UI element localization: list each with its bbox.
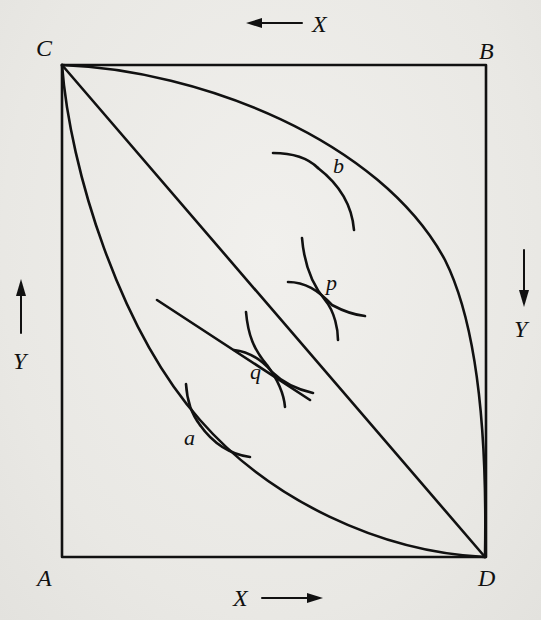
top-x-arrow-icon	[246, 18, 302, 28]
bottom-axis-label-x: X	[233, 586, 248, 610]
point-label-b: b	[333, 155, 344, 177]
right-y-arrow-icon	[519, 250, 529, 307]
corner-label-c: C	[36, 36, 52, 60]
top-axis-label-x: X	[312, 12, 327, 36]
corner-label-b: B	[479, 39, 494, 63]
corner-label-d: D	[478, 566, 495, 590]
tangency-a	[186, 384, 250, 457]
point-label-p: p	[326, 272, 337, 294]
figure-page: C B A D X X Y Y b p q a	[0, 0, 541, 620]
right-axis-label-y: Y	[514, 317, 527, 341]
left-y-arrow-icon	[16, 279, 26, 333]
edgeworth-box-diagram	[0, 0, 541, 620]
corner-label-a: A	[37, 566, 52, 590]
bottom-x-arrow-icon	[262, 593, 323, 603]
point-label-q: q	[250, 361, 261, 383]
point-label-a: a	[184, 427, 195, 449]
left-axis-label-y: Y	[13, 349, 26, 373]
